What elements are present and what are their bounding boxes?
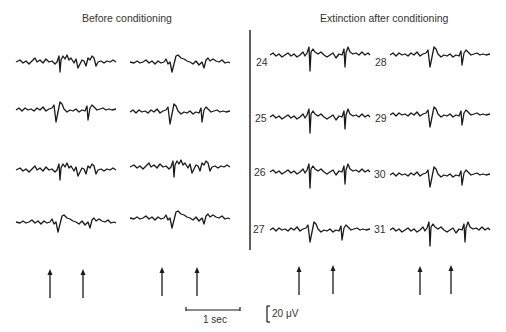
trial-number: 30 xyxy=(374,168,386,180)
trial-number: 28 xyxy=(375,56,387,68)
trial-number: 26 xyxy=(254,166,266,178)
eeg-traces xyxy=(0,0,506,332)
trial-number: 29 xyxy=(375,112,387,124)
trace-before-c1-r3 xyxy=(16,163,116,180)
up-arrow-icon xyxy=(331,265,336,294)
voltage-scale-bar xyxy=(267,306,270,322)
up-arrow-icon xyxy=(195,267,200,296)
trace-before-c2-r1 xyxy=(130,55,230,72)
trace-trial-27 xyxy=(270,222,370,242)
trace-trial-26 xyxy=(270,164,370,188)
trace-before-c2-r3 xyxy=(130,160,230,177)
trace-trial-29 xyxy=(390,107,490,127)
up-arrow-icon xyxy=(297,266,302,295)
up-arrow-icon xyxy=(449,265,454,294)
up-arrow-icon xyxy=(160,267,165,296)
time-scale-bar xyxy=(186,307,240,311)
trace-trial-30 xyxy=(390,167,490,187)
up-arrow-icon xyxy=(48,269,53,298)
trace-trial-24 xyxy=(270,47,370,71)
trace-trial-31 xyxy=(390,222,490,246)
trace-trial-28 xyxy=(390,47,490,67)
time-scale-label: 1 sec xyxy=(203,314,227,325)
trace-before-c1-r2 xyxy=(16,102,116,122)
voltage-scale-label: 20 μV xyxy=(272,308,298,319)
trial-number: 25 xyxy=(255,112,267,124)
up-arrow-icon xyxy=(81,269,86,298)
up-arrow-icon xyxy=(418,266,423,295)
trace-trial-25 xyxy=(270,109,370,133)
trace-before-c1-r1 xyxy=(16,55,116,72)
trial-number: 27 xyxy=(253,223,265,235)
trace-before-c2-r2 xyxy=(130,104,230,124)
trial-number: 31 xyxy=(374,223,386,235)
trial-number: 24 xyxy=(256,56,268,68)
trace-before-c2-r4 xyxy=(130,211,230,228)
trace-before-c1-r4 xyxy=(16,215,116,232)
